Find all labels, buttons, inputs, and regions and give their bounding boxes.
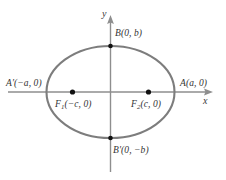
label-vertex-left: A'(−a, 0) bbox=[6, 79, 42, 89]
focus-1-point bbox=[70, 89, 75, 94]
label-covertex-bottom: B'(0, −b) bbox=[113, 146, 149, 156]
label-focus-2: F2(c, 0) bbox=[131, 100, 161, 110]
label-focus-1-subscript: 1 bbox=[61, 103, 65, 110]
y-axis-label: y bbox=[102, 9, 106, 19]
label-focus-2-subscript: 2 bbox=[137, 103, 141, 110]
covertex-bottom-point bbox=[108, 136, 113, 141]
covertex-top-point bbox=[108, 44, 113, 49]
label-focus-2-coords: (c, 0) bbox=[140, 99, 161, 109]
label-focus-1-coords: (−c, 0) bbox=[64, 99, 91, 109]
label-vertex-right: A(a, 0) bbox=[180, 79, 207, 89]
label-covertex-top: B(0, b) bbox=[115, 29, 142, 39]
label-focus-1: F1(−c, 0) bbox=[55, 100, 92, 110]
focus-2-point bbox=[146, 89, 151, 94]
ellipse-figure: A'(−a, 0) A(a, 0) B(0, b) B'(0, −b) F1(−… bbox=[0, 0, 226, 180]
x-axis-label: x bbox=[203, 96, 207, 106]
